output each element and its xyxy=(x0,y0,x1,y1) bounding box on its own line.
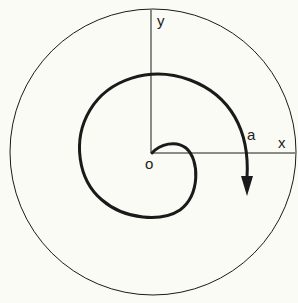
spiral-curve xyxy=(80,74,248,217)
y-axis-label: y xyxy=(157,12,165,29)
arrowhead-icon xyxy=(241,176,253,196)
curve-label: a xyxy=(247,126,256,143)
diagram-canvas: y x o a xyxy=(0,0,298,303)
spiral-diagram: y x o a xyxy=(0,0,298,303)
x-axis-label: x xyxy=(278,134,286,151)
origin-label: o xyxy=(145,155,153,172)
